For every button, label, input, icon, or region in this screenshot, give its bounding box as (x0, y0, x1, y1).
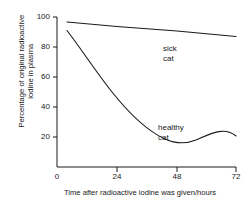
chart-figure: 100 80 60 40 20 0 24 48 72 Percentage of… (0, 0, 250, 204)
x-tick-label-0: 0 (47, 173, 67, 181)
x-tick-label-48: 48 (167, 173, 187, 181)
series-annotation-sick-cat-line1: sick (163, 44, 177, 54)
series-line-sick-cat (67, 22, 236, 37)
series-annotation-sick-cat-line2: cat (163, 54, 177, 64)
x-axis-title: Time after radioactive iodine was given/… (30, 188, 250, 197)
series-annotation-healthy-cat: healthy cat (158, 123, 184, 143)
y-axis-title: Percentage of original radioactive iodin… (17, 5, 35, 137)
series-annotation-sick-cat: sick cat (163, 44, 177, 64)
x-tick-label-72: 72 (226, 173, 246, 181)
series-line-healthy-cat (67, 31, 236, 143)
series-annotation-healthy-cat-line1: healthy (158, 123, 184, 133)
series-annotation-healthy-cat-line2: cat (158, 133, 184, 143)
y-axis-title-line2: iodine in plasma (26, 5, 35, 137)
y-axis-title-line1: Percentage of original radioactive (17, 15, 26, 128)
y-tick-marks (53, 17, 57, 137)
x-tick-label-24: 24 (107, 173, 127, 181)
